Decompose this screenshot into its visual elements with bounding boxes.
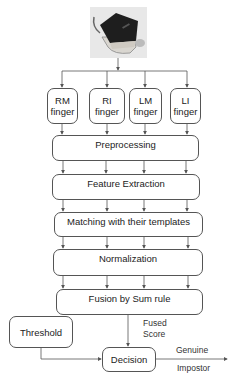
decision-box: Decision [102,347,156,372]
finger-label: finger [51,106,75,117]
finger-label: RI [102,95,112,106]
finger-box-li: LI finger [170,88,201,124]
finger-box-rm: RM finger [47,88,78,124]
finger-label: finger [134,106,158,117]
stage-label: Matching with their templates [67,216,190,227]
stage-label: Feature Extraction [87,178,165,189]
stage-fusion: Fusion by Sum rule [56,289,203,315]
finger-box-ri: RI finger [89,88,125,124]
fused-score-label: Fused Score [143,318,167,340]
impostor-label: Impostor [177,363,210,374]
stage-label: Fusion by Sum rule [89,293,171,304]
stage-feature-extraction: Feature Extraction [52,174,200,200]
finger-box-lm: LM finger [129,88,162,124]
finger-label: LI [182,95,190,106]
threshold-label: Threshold [20,327,62,338]
stage-matching: Matching with their templates [54,212,203,237]
stage-preprocessing: Preprocessing [52,135,199,161]
finger-label: finger [95,106,119,117]
finger-label: finger [174,106,198,117]
finger-label: RM [55,95,70,106]
threshold-box: Threshold [9,316,73,348]
stage-label: Preprocessing [95,139,156,150]
finger-label: LM [139,95,152,106]
stage-normalization: Normalization [53,249,203,276]
decision-label: Decision [111,354,147,365]
stage-label: Normalization [99,253,157,264]
genuine-label: Genuine [176,345,208,356]
